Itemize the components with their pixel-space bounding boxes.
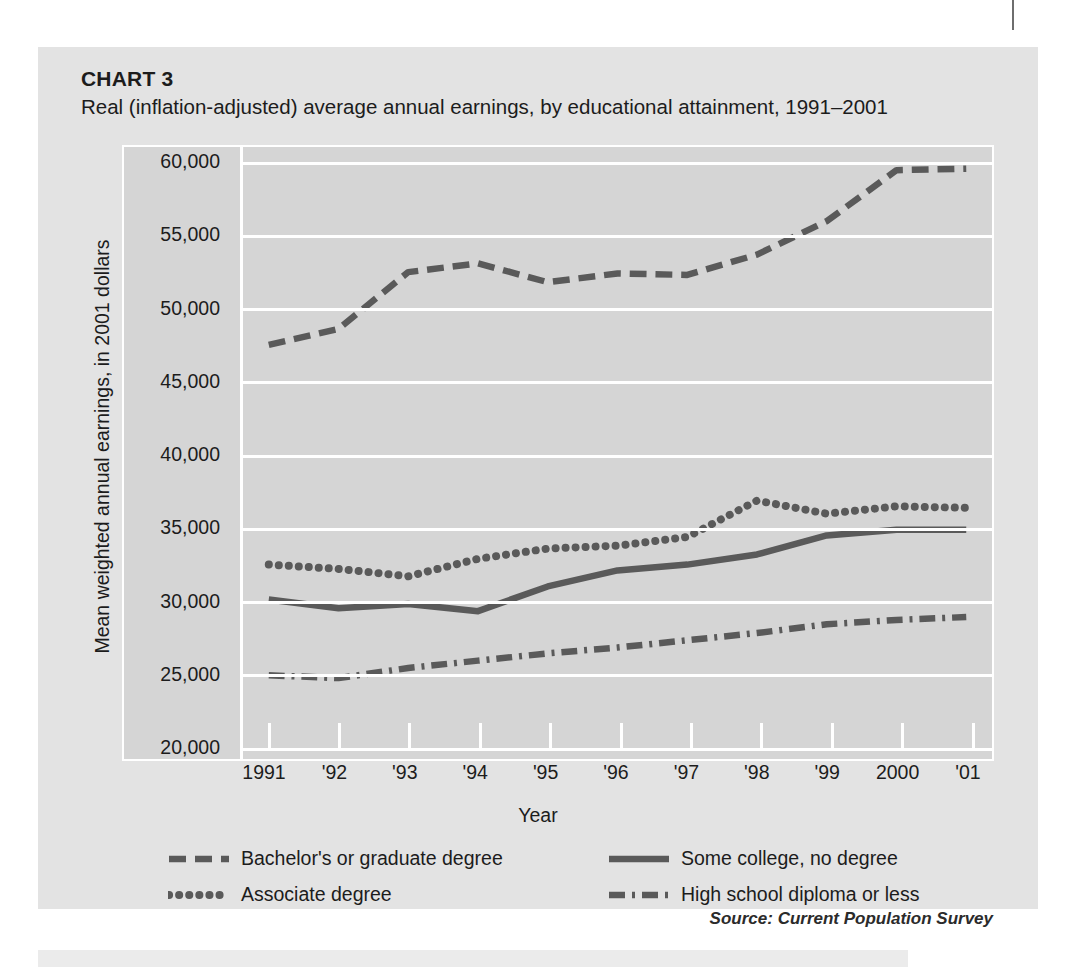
next-panel-edge (38, 950, 908, 967)
page-top-rule (1012, 0, 1014, 30)
y-axis-tick-label: 50,000 (160, 296, 220, 319)
y-axis-tick-labels: 20,00025,00030,00035,00040,00045,00050,0… (122, 145, 232, 761)
axis-baseline (243, 748, 992, 751)
plot-area (240, 147, 992, 759)
gridline (243, 528, 992, 531)
x-axis-tick (268, 723, 271, 749)
x-axis-tick (620, 723, 623, 749)
legend-label: Bachelor's or graduate degree (241, 847, 503, 870)
x-axis-tick-label: '93 (392, 761, 417, 784)
page-background: CHART 3 Real (inflation-adjusted) averag… (0, 0, 1071, 967)
x-axis-tick-label: '01 (955, 761, 980, 784)
x-axis-tick (479, 723, 482, 749)
y-axis-tick-label: 25,000 (160, 662, 220, 685)
x-axis-tick-label: '92 (322, 761, 347, 784)
legend-item: Some college, no degree (608, 847, 898, 870)
x-axis-tick (690, 723, 693, 749)
y-axis-tick-label: 35,000 (160, 516, 220, 539)
x-axis-tick (831, 723, 834, 749)
gridline (243, 308, 992, 311)
legend-item: High school diploma or less (608, 883, 919, 906)
legend-item: Bachelor's or graduate degree (168, 847, 503, 870)
x-axis-tick (901, 723, 904, 749)
legend-swatch-solid (608, 852, 670, 866)
x-axis-tick (408, 723, 411, 749)
source-note: Source: Current Population Survey (710, 909, 993, 929)
x-axis-tick-label: '96 (603, 761, 628, 784)
legend-label: Associate degree (241, 883, 392, 906)
gridline (243, 674, 992, 677)
gridline (243, 455, 992, 458)
y-axis-tick-label: 40,000 (160, 443, 220, 466)
legend-swatch-dotted (168, 888, 230, 902)
x-axis-tick (338, 723, 341, 749)
x-axis-tick-label: 2000 (876, 761, 919, 784)
series-line (269, 169, 966, 345)
x-axis-tick-label: '97 (674, 761, 699, 784)
x-axis-tick-label: '99 (814, 761, 839, 784)
plot-frame (122, 145, 994, 761)
chart-card: CHART 3 Real (inflation-adjusted) averag… (38, 47, 1038, 909)
legend-label: Some college, no degree (681, 847, 898, 870)
x-axis-tick-label: '94 (462, 761, 487, 784)
legend-swatch-dashed (168, 852, 230, 866)
gridline (243, 235, 992, 238)
y-axis-title: Mean weighted annual earnings, in 2001 d… (91, 197, 114, 697)
gridline (243, 381, 992, 384)
y-axis-tick-label: 45,000 (160, 369, 220, 392)
y-axis-tick-label: 60,000 (160, 150, 220, 173)
x-axis-title: Year (38, 804, 1038, 827)
legend-label: High school diploma or less (681, 883, 919, 906)
chart-legend: Bachelor's or graduate degreeAssociate d… (38, 847, 1038, 909)
series-line (269, 501, 966, 577)
series-layer (243, 147, 992, 759)
y-axis-tick-label: 55,000 (160, 223, 220, 246)
series-line (269, 530, 966, 611)
x-axis-tick (972, 723, 975, 749)
x-axis-tick-label: '95 (533, 761, 558, 784)
gridline (243, 162, 992, 165)
legend-swatch-dash-dot (608, 888, 670, 902)
gridline (243, 601, 992, 604)
x-axis-tick (549, 723, 552, 749)
x-axis-tick-label: '98 (744, 761, 769, 784)
series-line (269, 617, 966, 678)
chart-subtitle: Real (inflation-adjusted) average annual… (81, 95, 888, 119)
x-axis-tick-label: 1991 (242, 761, 285, 784)
x-axis-tick (760, 723, 763, 749)
y-axis-tick-label: 30,000 (160, 589, 220, 612)
y-axis-tick-label: 20,000 (160, 736, 220, 759)
chart-number-label: CHART 3 (81, 67, 173, 91)
legend-item: Associate degree (168, 883, 392, 906)
